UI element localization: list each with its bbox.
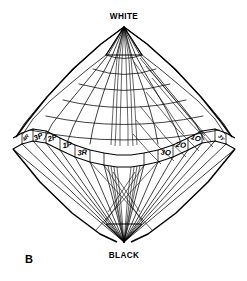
meridian-ur-4 xyxy=(124,27,225,134)
meridian-ur-2 xyxy=(124,27,181,143)
hue-label-2P: 2P xyxy=(46,132,59,144)
meridian-ul-4 xyxy=(23,27,124,134)
meridian-ul-2 xyxy=(67,27,124,143)
figure-panel-label: B xyxy=(25,253,33,265)
white-apex-label: WHITE xyxy=(110,12,139,21)
color-solid-figure: 4R 3P 2P 1P 3R 3O 2O 1O 3Y xyxy=(0,0,247,281)
back-meridian-band-upper xyxy=(111,27,137,146)
meridian-ur-1 xyxy=(124,27,158,144)
lower-cone-left-edge xyxy=(13,149,117,242)
meridian-ll-1 xyxy=(13,149,124,242)
meridian-ul-1 xyxy=(90,27,124,144)
equator-lower-boundary xyxy=(13,141,235,167)
hue-label-1O: 1O xyxy=(190,132,202,143)
lower-back-hatching xyxy=(90,162,158,230)
hue-label-3R: 3R xyxy=(77,148,88,158)
hue-label-1P: 1P xyxy=(62,140,74,150)
meridian-lr-1 xyxy=(124,149,235,242)
meridian-lr-2 xyxy=(124,144,226,242)
black-apex-label: BLACK xyxy=(109,251,140,260)
latitude-ring-u5 xyxy=(46,116,203,125)
lower-cone-right-edge xyxy=(131,149,235,242)
meridian-ll-4 xyxy=(46,143,124,242)
lower-cone xyxy=(13,141,235,242)
latitude-ring-u3 xyxy=(79,84,170,91)
hue-label-2O: 2O xyxy=(174,140,186,151)
hue-label-3P: 3P xyxy=(32,130,45,143)
hue-label-3Y: 3Y xyxy=(217,133,226,142)
meridian-lr-4 xyxy=(124,143,202,242)
meridian-ll-2 xyxy=(22,144,124,242)
figure-svg: 4R 3P 2P 1P 3R 3O 2O 1O 3Y xyxy=(0,0,247,281)
latitude-ring-u4 xyxy=(63,100,186,108)
hue-label-3O: 3O xyxy=(160,148,171,158)
